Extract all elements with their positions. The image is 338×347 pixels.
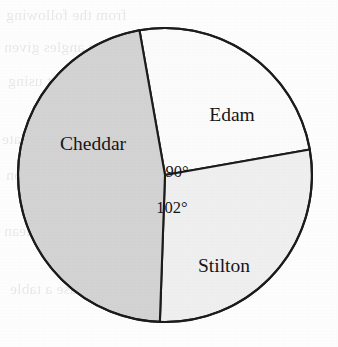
slice-label-stilton: Stilton: [198, 255, 250, 276]
slice-label-cheddar: Cheddar: [60, 133, 127, 154]
pie-slice-cheddar: [18, 30, 165, 322]
pie-chart-canvas: Edam90°Stilton102°Cheddar: [0, 0, 338, 347]
angle-label-edam: 90°: [165, 162, 188, 181]
pie-chart-figure: from the following measure angles given …: [0, 0, 338, 347]
slice-label-edam: Edam: [209, 104, 254, 125]
angle-label-stilton: 102°: [156, 198, 187, 217]
